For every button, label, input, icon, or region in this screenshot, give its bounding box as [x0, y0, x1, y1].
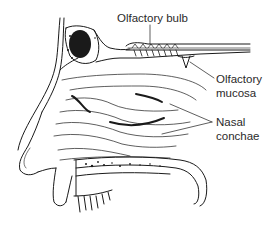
nasal-conchae-leader-upper	[170, 104, 212, 122]
nasal-conchae	[54, 74, 206, 160]
label-nasal-conchae-line2: conchae	[216, 130, 259, 143]
label-nasal-conchae-line1: Nasal	[216, 116, 245, 129]
frontal-bone	[18, 18, 78, 150]
hard-palate	[74, 157, 207, 206]
label-olfactory-bulb: Olfactory bulb	[117, 12, 188, 25]
label-olfactory-mucosa-line2: mucosa	[216, 87, 256, 100]
frontal-sinus	[65, 26, 99, 64]
olfactory-mucosa-leader	[190, 62, 214, 78]
olfactory-bulb-structure	[94, 30, 250, 68]
nasal-cavity-diagram	[0, 0, 270, 225]
leader-lines	[150, 25, 214, 134]
nasal-conchae-leader-lower	[162, 122, 212, 134]
label-olfactory-mucosa-line1: Olfactory	[216, 73, 262, 86]
